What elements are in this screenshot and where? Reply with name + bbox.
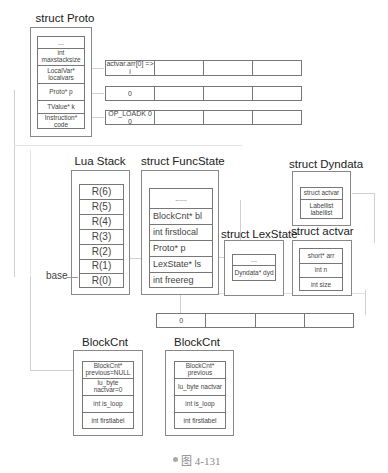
base-arrow [67, 277, 78, 278]
proto-field-p: Proto* p [38, 84, 84, 101]
connector-code [92, 117, 104, 118]
base-label: base [46, 270, 68, 281]
connector-localvars [92, 68, 104, 69]
code-cell-3 [252, 111, 301, 124]
funcstate-title: struct FuncState [141, 155, 221, 167]
funcstate-field-ellipsis: ...... [150, 189, 212, 209]
code-array: OP_LOADK 0 0 [105, 110, 302, 125]
k-cell-0: 0 [106, 87, 154, 100]
dyndata-title: struct Dyndata [289, 158, 353, 170]
stack-slot-r1: R(1) [80, 260, 123, 274]
connector-proto-bottom [14, 145, 242, 146]
funcstate-struct: ...... BlockCnt* bl int firstlocal Proto… [141, 170, 219, 295]
lua-stack-title: Lua Stack [70, 155, 130, 167]
blockcnt2-fields: BlockCnt* previous lu_byte nactvar int i… [174, 361, 226, 429]
funcstate-field-firstlocal: int firstlocal [150, 225, 212, 241]
blockcnt1-field-previous: BlockCnt* previous=NULL [83, 362, 133, 379]
localvars-array: actvar.arr[0] => i [105, 60, 302, 76]
k-cell-1 [154, 87, 203, 100]
lua-stack: R(6) R(5) R(4) R(3) R(2) R(1) R(0) [71, 170, 130, 295]
actvar-arr-cell-3 [304, 314, 353, 327]
proto-field-ellipsis: ... [38, 37, 84, 49]
actvar-arr-cell-0: 0 [157, 314, 205, 327]
proto-field-k: TValue* k [38, 101, 84, 114]
actvar-arr-cell-1 [205, 314, 254, 327]
stack-slot-r0: R(0) [80, 274, 123, 289]
stack-slot-r3: R(3) [80, 230, 123, 245]
lua-stack-slots: R(6) R(5) R(4) R(3) R(2) R(1) R(0) [79, 184, 124, 288]
connector-actvar-loop-v [374, 193, 375, 243]
proto-fields: ... int maxstacksize LocalVar* localvars… [37, 36, 85, 129]
connector-blockcnt-v [30, 276, 31, 371]
blockcnt2-field-previous: BlockCnt* previous [175, 362, 225, 379]
blockcnt2-field-nactvar: lu_byte nactvar [175, 379, 225, 396]
blockcnt2-field-firstlabel: int firstlabel [175, 413, 225, 430]
blockcnt1-field-nactvar: lu_byte nactvar=0 [83, 379, 133, 396]
localvars-cell-2 [203, 61, 252, 75]
lexstate-struct: ... Dyndata* dyd [224, 240, 284, 296]
localvars-cell-0: actvar.arr[0] => i [106, 61, 154, 75]
code-cell-1 [154, 111, 203, 124]
blockcnt1-field-is-loop: int is_loop [83, 396, 133, 413]
dyndata-struct: struct actvar Labellist labellist [292, 171, 351, 226]
figure-caption: 图 4-131 [181, 452, 220, 468]
blockcnt2-field-is-loop: int is_loop [175, 396, 225, 413]
blockcnt1-fields: BlockCnt* previous=NULL lu_byte nactvar=… [82, 361, 134, 429]
connector-arr-down [365, 290, 366, 315]
actvar-struct: short* arr int n int size [292, 240, 352, 296]
actvar-title: struct actvar [291, 225, 351, 237]
blockcnt1-field-firstlabel: int firstlabel [83, 413, 133, 430]
actvar-fields: short* arr int n int size [299, 248, 343, 291]
blockcnt2-struct: BlockCnt* previous lu_byte nactvar int i… [165, 350, 234, 436]
connector-proto-left [14, 90, 15, 277]
blockcnt1-struct: BlockCnt* previous=NULL lu_byte nactvar=… [73, 350, 143, 436]
dyndata-field-actvar: struct actvar [301, 188, 342, 200]
actvar-arr-cell-2 [255, 314, 304, 327]
lexstate-fields: ... Dyndata* dyd [232, 254, 276, 281]
funcstate-field-bl: BlockCnt* bl [150, 209, 212, 225]
code-cell-2 [203, 111, 252, 124]
stack-slot-r2: R(2) [80, 245, 123, 260]
k-array: 0 [105, 86, 302, 101]
proto-field-localvars: LocalVar* localvars [38, 66, 84, 84]
funcstate-field-freereg: int freereg [150, 273, 212, 289]
proto-title: struct Proto [27, 12, 103, 24]
actvar-arr-array: 0 [156, 313, 354, 328]
stack-slot-r4: R(4) [80, 215, 123, 230]
localvars-cell-3 [252, 61, 301, 75]
blockcnt2-title: BlockCnt [172, 336, 222, 348]
stack-slot-r5: R(5) [80, 200, 123, 215]
lexstate-field-ellipsis: ... [233, 255, 275, 266]
actvar-field-n: int n [300, 264, 342, 278]
connector-k [92, 93, 104, 94]
funcstate-fields: ...... BlockCnt* bl int firstlocal Proto… [149, 188, 213, 288]
code-cell-0: OP_LOADK 0 0 [106, 111, 154, 124]
caption-bullet-icon [173, 457, 178, 462]
k-cell-3 [252, 87, 301, 100]
k-cell-2 [203, 87, 252, 100]
localvars-cell-1 [154, 61, 203, 75]
proto-field-maxstacksize: int maxstacksize [38, 49, 84, 66]
proto-struct: ... int maxstacksize LocalVar* localvars… [30, 27, 92, 137]
proto-field-code: Instruction* code [38, 114, 84, 130]
lexstate-field-dyd: Dyndata* dyd [233, 266, 275, 281]
stack-slot-r6: R(6) [80, 185, 123, 200]
actvar-field-arr: short* arr [300, 249, 342, 264]
dyndata-field-labellist: Labellist labellist [301, 200, 342, 219]
connector-actvar-loop [352, 193, 374, 194]
connector-blockcnt-left [30, 150, 31, 275]
actvar-field-size: int size [300, 278, 342, 292]
funcstate-field-p: Proto* p [150, 241, 212, 257]
lexstate-title: struct LexState [221, 228, 287, 240]
blockcnt1-title: BlockCnt [80, 336, 130, 348]
connector-bl-down [180, 293, 181, 313]
funcstate-field-ls: LexState* ls [150, 257, 212, 273]
dyndata-fields: struct actvar Labellist labellist [300, 187, 343, 219]
